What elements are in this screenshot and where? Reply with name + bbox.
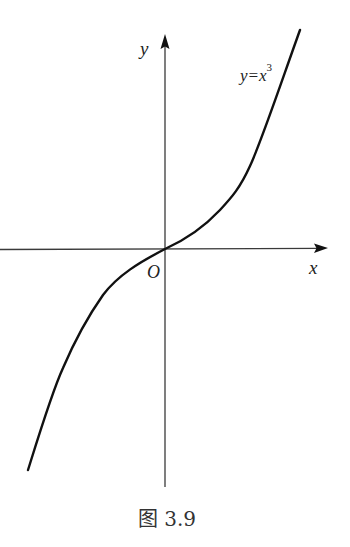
cubic-curve bbox=[28, 30, 300, 470]
origin-label: O bbox=[147, 262, 160, 282]
function-label: y=x3 bbox=[238, 61, 273, 85]
x-axis bbox=[0, 248, 318, 249]
cubic-function-figure: y x O y=x3 图 3.9 bbox=[0, 0, 350, 547]
y-axis-label: y bbox=[138, 38, 149, 59]
figure-caption: 图 3.9 bbox=[138, 507, 196, 531]
function-label-base: y=x bbox=[238, 66, 267, 85]
function-label-exponent: 3 bbox=[267, 61, 273, 73]
x-axis-label: x bbox=[308, 257, 318, 278]
